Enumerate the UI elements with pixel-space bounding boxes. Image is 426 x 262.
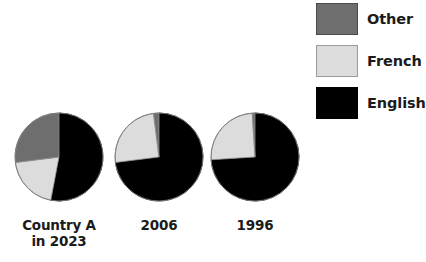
- pie-slice: [115, 113, 159, 162]
- legend: Other French English: [316, 0, 416, 125]
- legend-label-english: English: [367, 95, 426, 111]
- legend-label-other: Other: [367, 11, 413, 27]
- pie-caption-2006: 2006: [112, 218, 206, 234]
- legend-swatch-english: [316, 87, 358, 119]
- pie-caption-country-a-2023: Country A in 2023: [9, 218, 109, 249]
- pie-slice: [15, 113, 59, 163]
- pie-caption-1996: 1996: [208, 218, 302, 234]
- legend-label-french: French: [367, 53, 422, 69]
- legend-item-english: English: [316, 86, 426, 120]
- legend-item-french: French: [316, 44, 422, 78]
- legend-swatch-french: [316, 45, 358, 77]
- pie-slice: [211, 113, 255, 160]
- legend-item-other: Other: [316, 2, 413, 36]
- legend-swatch-other: [316, 3, 358, 35]
